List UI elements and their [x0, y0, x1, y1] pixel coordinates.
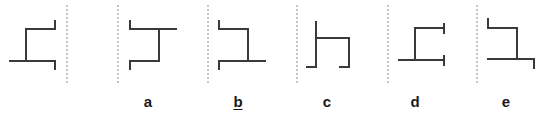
option-a-label[interactable]: a — [144, 94, 152, 110]
option-c-figure[interactable] — [307, 22, 349, 67]
option-e-label[interactable]: e — [502, 94, 510, 110]
option-b-label[interactable]: b — [233, 94, 242, 110]
option-d-figure[interactable] — [399, 24, 444, 65]
option-b-figure[interactable] — [219, 21, 265, 69]
option-e-figure[interactable] — [488, 19, 534, 68]
reference-figure — [10, 21, 55, 69]
option-a-figure[interactable] — [130, 21, 176, 69]
option-d-label[interactable]: d — [410, 94, 419, 110]
option-c-label[interactable]: c — [323, 94, 331, 110]
diagram-canvas — [0, 0, 543, 116]
